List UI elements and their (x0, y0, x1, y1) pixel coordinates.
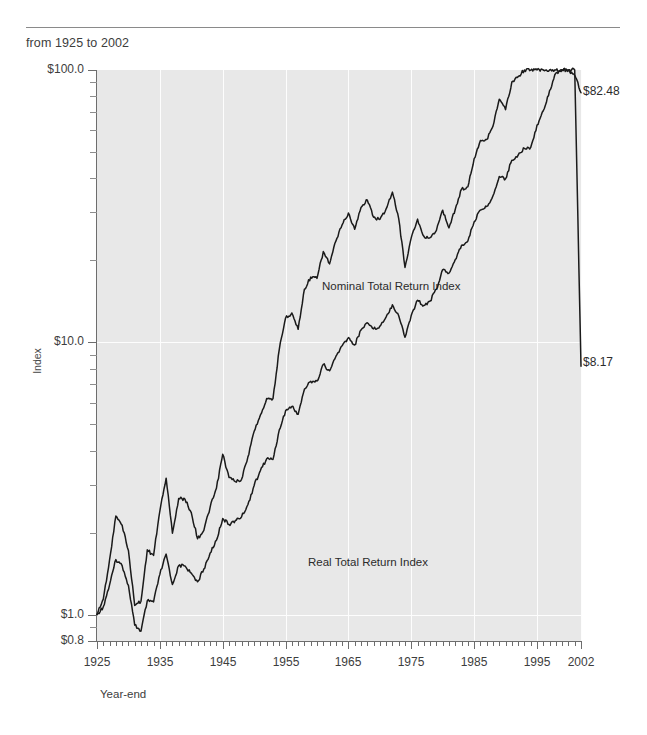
x-axis-minor-tick (518, 641, 519, 646)
header-divider (26, 27, 620, 28)
x-axis-minor-tick (242, 641, 243, 646)
x-axis-minor-tick (543, 641, 544, 646)
x-axis-minor-tick (229, 641, 230, 646)
y-axis-minor-tick (90, 369, 97, 370)
y-axis-minor-tick (90, 82, 97, 83)
x-axis-tick-label: 1975 (398, 655, 425, 669)
x-axis-minor-tick (292, 641, 293, 646)
endpoint-label-nominal: $82.48 (583, 84, 620, 98)
x-axis-minor-tick (562, 641, 563, 646)
y-axis-minor-tick (90, 451, 97, 452)
y-axis-minor-tick (90, 112, 97, 113)
y-axis-minor-tick (90, 96, 97, 97)
x-axis-tick (348, 641, 349, 649)
x-axis-minor-tick (568, 641, 569, 646)
x-axis-minor-tick (254, 641, 255, 646)
x-axis-minor-tick (355, 641, 356, 646)
x-axis-tick (411, 641, 412, 649)
x-axis-minor-tick (386, 641, 387, 646)
y-axis-minor-tick (90, 533, 97, 534)
x-axis-tick (97, 641, 98, 649)
gridline-vertical (474, 70, 475, 641)
x-axis-minor-tick (166, 641, 167, 646)
x-axis-minor-tick (323, 641, 324, 646)
y-axis-minor-tick (90, 212, 97, 213)
x-axis-minor-tick (424, 641, 425, 646)
y-axis-minor-tick (90, 152, 97, 153)
series-label-real: Real Total Return Index (308, 556, 428, 568)
x-axis-tick (160, 641, 161, 649)
y-axis-tick (88, 615, 97, 616)
y-axis-minor-tick (90, 627, 97, 628)
x-axis-minor-tick (191, 641, 192, 646)
endpoint-label-real: $8.17 (583, 355, 613, 369)
x-axis-minor-tick (103, 641, 104, 646)
y-axis-minor-tick (90, 178, 97, 179)
x-axis-minor-tick (260, 641, 261, 646)
x-axis-minor-tick (279, 641, 280, 646)
x-axis-minor-tick (179, 641, 180, 646)
x-axis-minor-tick (499, 641, 500, 646)
x-axis-minor-tick (110, 641, 111, 646)
gridline-vertical (223, 70, 224, 641)
y-axis-tick-label: $1.0 (2, 607, 84, 621)
gridline-vertical (581, 70, 582, 641)
x-axis-minor-tick (367, 641, 368, 646)
x-axis-tick-label: 1955 (273, 655, 300, 669)
x-axis-minor-tick (336, 641, 337, 646)
x-axis-minor-tick (493, 641, 494, 646)
x-axis-minor-tick (418, 641, 419, 646)
x-axis-tick-label: 1985 (461, 655, 488, 669)
x-axis-tick-label: 1935 (147, 655, 174, 669)
x-axis-minor-tick (330, 641, 331, 646)
y-axis-tick (88, 70, 97, 71)
y-axis-tick-label: $100.0 (2, 62, 84, 76)
x-axis-minor-tick (216, 641, 217, 646)
x-axis-minor-tick (317, 641, 318, 646)
x-axis-tick (223, 641, 224, 649)
gridline-vertical (537, 70, 538, 641)
x-axis-tick-label: 1925 (84, 655, 111, 669)
x-axis-minor-tick (575, 641, 576, 646)
x-axis-minor-tick (430, 641, 431, 646)
x-axis-minor-tick (248, 641, 249, 646)
x-axis-minor-tick (311, 641, 312, 646)
x-axis-minor-tick (449, 641, 450, 646)
x-axis-minor-tick (455, 641, 456, 646)
gridline-vertical (160, 70, 161, 641)
y-axis-minor-tick (90, 424, 97, 425)
chart-figure: from 1925 to 2002 $0.8$1.0$10.0$100.0 In… (0, 0, 647, 735)
x-axis-minor-tick (524, 641, 525, 646)
y-axis-tick-label: $10.0 (2, 334, 84, 348)
x-axis-minor-tick (512, 641, 513, 646)
x-axis-minor-tick (128, 641, 129, 646)
x-axis-minor-tick (342, 641, 343, 646)
y-axis-minor-tick (90, 355, 97, 356)
x-axis-minor-tick (147, 641, 148, 646)
x-axis-tick (286, 641, 287, 649)
x-axis-minor-tick (135, 641, 136, 646)
x-axis-minor-tick (399, 641, 400, 646)
x-axis-title: Year-end (100, 688, 146, 700)
x-axis-minor-tick (436, 641, 437, 646)
x-axis-minor-tick (380, 641, 381, 646)
y-axis-title: Index (31, 321, 43, 401)
x-axis-minor-tick (392, 641, 393, 646)
x-axis-minor-tick (480, 641, 481, 646)
x-axis-minor-tick (235, 641, 236, 646)
x-axis-minor-tick (361, 641, 362, 646)
x-axis-tick-label: 1995 (524, 655, 551, 669)
y-axis-minor-tick (90, 485, 97, 486)
x-axis-minor-tick (506, 641, 507, 646)
y-axis-tick (88, 342, 97, 343)
x-axis-line (96, 641, 582, 642)
y-axis-minor-tick (90, 130, 97, 131)
x-axis-tick-label: 2002 (568, 655, 595, 669)
x-axis-tick (537, 641, 538, 649)
x-axis-minor-tick (154, 641, 155, 646)
x-axis-minor-tick (198, 641, 199, 646)
y-axis-minor-tick (90, 260, 97, 261)
x-axis-tick (474, 641, 475, 649)
x-axis-minor-tick (443, 641, 444, 646)
x-axis-minor-tick (304, 641, 305, 646)
